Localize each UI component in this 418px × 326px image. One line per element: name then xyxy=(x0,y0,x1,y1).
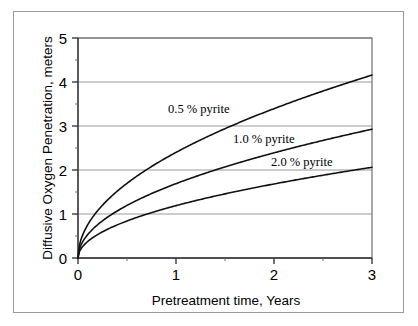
series-annotation-2: 2.0 % pyrite xyxy=(271,155,333,169)
x-tick-labels-group: 0123 xyxy=(74,266,376,283)
plot-area-border xyxy=(78,38,372,258)
series-annotation-0: 0.5 % pyrite xyxy=(168,102,230,116)
x-tick-label-0: 0 xyxy=(74,266,82,283)
y-tick-label-0: 0 xyxy=(59,250,67,267)
curve-series-2 xyxy=(78,167,372,258)
y-tick-labels-group: 012345 xyxy=(59,30,67,267)
y-tick-label-1: 1 xyxy=(59,206,67,223)
x-axis-label: Pretreatment time, Years xyxy=(152,293,301,308)
y-tick-label-2: 2 xyxy=(59,162,67,179)
x-tick-label-1: 1 xyxy=(172,266,180,283)
series-annotation-1: 1.0 % pyrite xyxy=(233,132,295,146)
chart-svg: 0123 012345 0.5 % pyrite1.0 % pyrite2.0 … xyxy=(0,0,418,326)
x-tick-label-3: 3 xyxy=(368,266,376,283)
y-tick-label-4: 4 xyxy=(59,74,67,91)
y-tick-label-3: 3 xyxy=(59,118,67,135)
y-tick-label-5: 5 xyxy=(59,30,67,47)
axis-ticks-group xyxy=(72,38,372,264)
y-axis-label: Diffusive Oxygen Penetration, meters xyxy=(40,36,55,260)
x-tick-label-2: 2 xyxy=(270,266,278,283)
figure-container: 0123 012345 0.5 % pyrite1.0 % pyrite2.0 … xyxy=(0,0,418,326)
plot-box xyxy=(78,38,372,258)
gridlines-group xyxy=(78,38,372,258)
